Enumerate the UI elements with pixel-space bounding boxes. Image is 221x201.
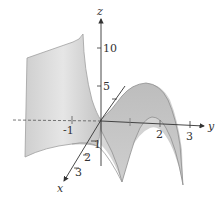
z-axis-label: z (96, 5, 103, 18)
saddle-surface-figure: z 10 5 y -1 2 3 x 1 2 3 (0, 0, 221, 201)
x-tick-label-1: 1 (94, 138, 101, 151)
y-tick-label-3: 3 (186, 130, 193, 143)
y-axis-label: y (207, 120, 215, 133)
plot-canvas: z 10 5 y -1 2 3 x 1 2 3 (0, 0, 221, 201)
y-tick-label-neg1: -1 (63, 124, 74, 137)
x-tick-label-3: 3 (75, 166, 82, 179)
surface-right-arch (101, 83, 183, 185)
z-tick-label-10: 10 (103, 42, 117, 55)
y-tick-label-2: 2 (156, 128, 163, 141)
x-axis-label: x (57, 182, 64, 195)
z-tick-label-5: 5 (103, 80, 110, 93)
x-tick-label-2: 2 (84, 151, 91, 164)
